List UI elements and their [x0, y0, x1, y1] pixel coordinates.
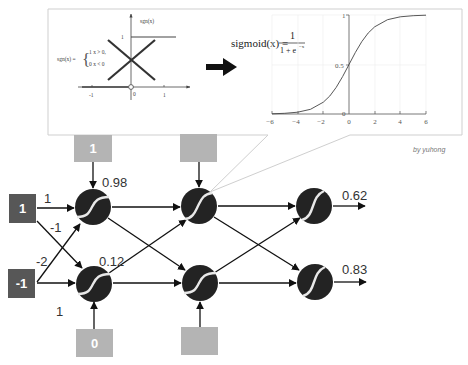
neural-network-diagram: sgn(x) 1 -1 0 1 sgn(x) = { 1 x > 0, 0 x …: [0, 0, 468, 365]
sigmoid-y-tick: 1: [342, 12, 346, 20]
sigmoid-x-tick: −2: [317, 118, 325, 126]
weight-label-in2-h2: 1: [56, 304, 63, 319]
sgn-plot: sgn(x) 1 -1 0 1 sgn(x) = { 1 x > 0, 0 x …: [57, 14, 190, 100]
bias-node-layer2-top[interactable]: [180, 134, 217, 162]
neuron-m2[interactable]: [182, 265, 218, 301]
sigmoid-x-tick: −6: [266, 118, 274, 126]
neuron-m1[interactable]: [181, 188, 217, 224]
input-node-1[interactable]: 1: [9, 194, 36, 223]
bias-value: 1: [89, 141, 96, 156]
output-label-1: 0.62: [342, 188, 367, 203]
sigmoid-exponent: −x: [299, 44, 305, 49]
neuron-o1[interactable]: [296, 188, 332, 224]
weight-label-in2-h1: -2: [36, 254, 48, 269]
neuron-h2[interactable]: [76, 266, 112, 302]
sigmoid-numerator: 1: [290, 30, 295, 41]
neuron-o2[interactable]: [297, 264, 333, 300]
bias-node-layer1-bottom[interactable]: 0: [76, 329, 113, 357]
sgn-formula-lhs: sgn(x) =: [57, 56, 76, 63]
activation-label-h2: 0.12: [99, 254, 124, 269]
sgn-x-tick: -1: [89, 92, 94, 98]
bias-value: 0: [91, 336, 98, 351]
sigmoid-y-tick: 0.5: [335, 62, 344, 70]
credit-text: by yuhong: [413, 146, 445, 154]
sgn-case-2: 0 x < 0: [89, 61, 105, 67]
edge-m1-o2: [214, 217, 299, 270]
weight-label-in1-h2: -1: [50, 220, 62, 235]
connections: [37, 162, 366, 329]
transition-arrow-icon: [206, 58, 237, 76]
sgn-y-tick: 1: [121, 34, 124, 40]
sgn-open-point: [129, 85, 134, 90]
sgn-axis-label: sgn(x): [140, 18, 154, 25]
sigmoid-y-tick: 0: [342, 110, 346, 118]
sigmoid-x-tick: 0: [347, 118, 351, 126]
output-label-2: 0.83: [342, 262, 367, 277]
weight-label-in1-h1: 1: [44, 191, 51, 206]
input-node-2[interactable]: -1: [8, 269, 35, 298]
sigmoid-x-tick: 4: [398, 118, 402, 126]
sgn-x-tick: 1: [163, 92, 166, 98]
bias-node-layer1-top[interactable]: 1: [74, 135, 112, 162]
sigmoid-x-tick: −4: [292, 118, 300, 126]
bias-node-layer2-bottom[interactable]: [181, 327, 218, 355]
sigmoid-x-tick: 6: [424, 118, 428, 126]
sigmoid-x-tick: 2: [373, 118, 377, 126]
input-value: 1: [19, 201, 26, 216]
edge-m2-o1: [214, 218, 300, 273]
input-value: -1: [16, 276, 28, 291]
sigmoid-denominator: 1 + e: [280, 46, 297, 55]
neuron-h1[interactable]: [75, 189, 111, 225]
sigmoid-plot: sigmoid(x) = 1 1 + e −x 1: [231, 12, 428, 126]
sgn-x-tick: 0: [133, 91, 136, 97]
sgn-case-1: 1 x > 0,: [89, 49, 106, 55]
activation-label-h1: 0.98: [102, 175, 127, 190]
